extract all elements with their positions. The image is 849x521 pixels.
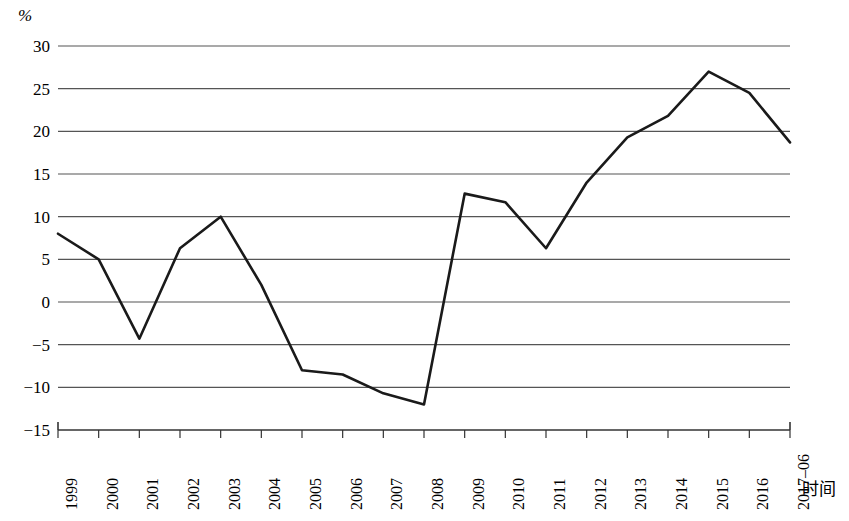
- x-axis-tick-label: 2007: [389, 478, 405, 510]
- x-axis-tick-label: 1999: [64, 478, 80, 510]
- x-axis-tick-label: 2009: [471, 478, 487, 510]
- x-axis-tick-labels: 1999200020012002200320042005200620072008…: [0, 0, 849, 521]
- x-axis-tick-label: 2004: [267, 478, 283, 510]
- x-axis-tick-label: 2014: [674, 478, 690, 510]
- x-axis-tick-label: 2005: [308, 478, 324, 510]
- x-axis-tick-label: 2016: [755, 478, 771, 510]
- x-axis-title: 时间: [802, 475, 836, 500]
- x-axis-tick-label: 2015: [715, 478, 731, 510]
- line-chart: % 302520151050−5−10−15 19992000200120022…: [0, 0, 849, 521]
- x-axis-tick-label: 2012: [593, 478, 609, 510]
- x-axis-tick-label: 2002: [186, 478, 202, 510]
- x-axis-tick-label: 2003: [227, 478, 243, 510]
- x-axis-tick-label: 2008: [430, 478, 446, 510]
- x-axis-tick-label: 2001: [145, 478, 161, 510]
- x-axis-tick-label: 2010: [511, 478, 527, 510]
- x-axis-tick-label: 2000: [105, 478, 121, 510]
- x-axis-tick-label: 2006: [349, 478, 365, 510]
- x-axis-tick-label: 2011: [552, 479, 568, 510]
- x-axis-tick-label: 2013: [633, 478, 649, 510]
